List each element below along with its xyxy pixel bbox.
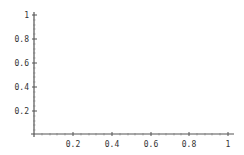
x-tick-label: 0.8 [182,140,197,149]
x-tick-label: 0.4 [105,140,120,149]
y-tick-label: 0.4 [15,83,30,92]
x-tick-label: 0.2 [66,140,81,149]
y-tick-label: 0.6 [15,59,30,68]
y-tick-label: 0.8 [15,35,30,44]
plot-area: 0.2 0.4 0.6 0.8 1 1 0.8 0.6 0.4 0.2 [0,0,244,155]
x-tick-label: 1 [226,140,231,149]
x-tick-label: 0.6 [144,140,159,149]
y-tick-label: 1 [24,11,29,20]
y-tick-label: 0.2 [15,107,30,116]
